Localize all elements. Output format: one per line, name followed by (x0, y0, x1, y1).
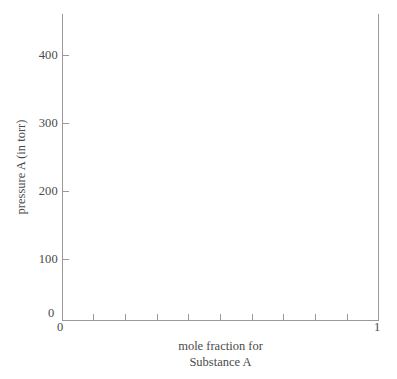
plot-area[interactable] (63, 14, 378, 320)
x-axis-tick-0.3 (157, 314, 158, 320)
x-axis-tick-label-1: 1 (374, 321, 380, 334)
x-axis-tick-0.6 (252, 314, 253, 320)
x-axis-line (62, 320, 379, 321)
y-axis-tick-100 (63, 259, 69, 260)
y-axis-tick-300 (63, 123, 69, 124)
chart-figure: 400 300 200 100 0 0 1 pressure A (in tor… (0, 0, 397, 379)
x-axis-title-line-1: mole fraction for (62, 338, 379, 354)
right-axis-line (378, 14, 379, 321)
x-axis-tick-0.9 (347, 314, 348, 320)
x-axis-tick-0.2 (125, 314, 126, 320)
y-axis-title: pressure A (in torr) (14, 77, 28, 257)
x-axis-tick-0.7 (283, 314, 284, 320)
x-axis-title: mole fraction for Substance A (62, 338, 379, 370)
y-axis-line (62, 14, 63, 321)
y-axis-tick-200 (63, 191, 69, 192)
y-axis-tick-400 (63, 55, 69, 56)
x-axis-tick-0.1 (93, 314, 94, 320)
x-axis-tick-label-0: 0 (57, 321, 63, 334)
y-axis-tick-label-0: 0 (48, 307, 54, 320)
x-axis-tick-0.4 (188, 314, 189, 320)
y-axis-tick-label-400-wrap: 400 (20, 49, 58, 62)
y-axis-tick-label-400: 400 (22, 49, 58, 62)
x-axis-tick-0.8 (315, 314, 316, 320)
x-axis-tick-0.5 (220, 314, 221, 320)
x-axis-title-line-2: Substance A (62, 354, 379, 370)
